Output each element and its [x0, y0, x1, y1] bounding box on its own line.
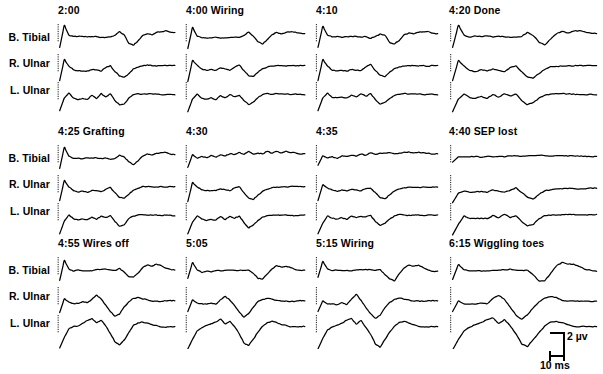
trace-svg — [52, 18, 180, 116]
trace-svg — [180, 139, 310, 237]
panel-4-10[interactable]: 4:10 — [310, 4, 443, 116]
channel-label-b-tibial: B. Tibial — [8, 152, 50, 164]
panel-title: 4:00 Wiring — [186, 4, 244, 16]
trace-line-r-ulnar — [453, 60, 597, 80]
channel-label-b-tibial: B. Tibial — [8, 31, 50, 43]
trace-line-r-ulnar — [60, 59, 175, 80]
trace-line-b-tibial — [60, 147, 175, 168]
trace-line-l-ulnar — [318, 214, 438, 233]
trace-line-r-ulnar — [188, 296, 305, 317]
panel-traces — [52, 251, 180, 349]
trace-svg — [443, 18, 603, 116]
trace-svg — [180, 18, 310, 116]
panel-4-30[interactable]: 4:30 — [180, 125, 310, 237]
panel-4-25-grafting[interactable]: 4:25 Grafting — [52, 125, 180, 237]
trace-line-l-ulnar — [318, 93, 438, 111]
channel-labels-row-2: B. Tibial R. Ulnar L. Ulnar — [0, 125, 52, 237]
trace-line-r-ulnar — [188, 60, 305, 81]
panel-title: 5:05 — [186, 237, 208, 249]
panel-title: 4:30 — [186, 125, 208, 137]
panel-title: 4:40 SEP lost — [449, 125, 517, 137]
trace-line-r-ulnar — [188, 182, 305, 201]
scale-bar-amplitude-label: 2 µv — [567, 330, 588, 342]
panel-traces — [180, 251, 310, 349]
panel-title: 4:20 Done — [449, 4, 501, 16]
trace-svg — [52, 139, 180, 237]
channel-labels-row-3: B. Tibial R. Ulnar L. Ulnar — [0, 237, 52, 349]
panel-traces — [310, 251, 443, 349]
trace-line-l-ulnar — [60, 215, 175, 234]
panel-4-35[interactable]: 4:35 — [310, 125, 443, 237]
scale-bar: 2 µv 10 ms — [540, 330, 603, 374]
trace-line-b-tibial — [188, 27, 305, 48]
panel-4-40-sep-lost[interactable]: 4:40 SEP lost — [443, 125, 603, 237]
trace-line-r-ulnar — [453, 296, 597, 320]
trace-svg — [310, 139, 443, 237]
trace-line-b-tibial — [60, 25, 175, 47]
trace-line-l-ulnar — [188, 319, 305, 349]
trace-block-row-3: B. Tibial R. Ulnar L. Ulnar 4:55 Wires o… — [0, 237, 603, 349]
trace-line-r-ulnar — [60, 180, 175, 200]
panel-4-55-wires-off[interactable]: 4:55 Wires off — [52, 237, 180, 349]
panel-traces — [443, 18, 603, 116]
trace-line-b-tibial — [318, 152, 438, 165]
trace-line-l-ulnar — [60, 93, 175, 111]
trace-line-b-tibial — [318, 26, 438, 47]
trace-line-l-ulnar — [188, 215, 305, 234]
trace-line-b-tibial — [453, 262, 597, 281]
trace-line-l-ulnar — [318, 318, 438, 349]
panel-title: 5:15 Wiring — [316, 237, 374, 249]
trace-line-l-ulnar — [453, 93, 597, 111]
trace-line-b-tibial — [453, 155, 597, 162]
panel-title: 4:55 Wires off — [58, 237, 129, 249]
panel-traces — [310, 139, 443, 237]
panel-traces — [52, 139, 180, 237]
channel-labels-row-1: B. Tibial R. Ulnar L. Ulnar — [0, 4, 52, 116]
panel-title: 2:00 — [58, 4, 80, 16]
panel-title: 6:15 Wiggling toes — [449, 237, 544, 249]
panel-traces — [443, 139, 603, 237]
trace-line-r-ulnar — [453, 188, 597, 203]
trace-line-l-ulnar — [453, 214, 597, 235]
trace-line-b-tibial — [453, 25, 597, 47]
trace-line-b-tibial — [318, 261, 438, 281]
channel-label-r-ulnar: R. Ulnar — [9, 290, 50, 302]
trace-line-b-tibial — [188, 151, 305, 167]
channel-label-b-tibial: B. Tibial — [8, 264, 50, 276]
channel-label-l-ulnar: L. Ulnar — [10, 84, 50, 96]
panel-traces — [180, 139, 310, 237]
panel-title: 4:25 Grafting — [58, 125, 125, 137]
trace-svg — [310, 18, 443, 116]
trace-line-l-ulnar — [60, 319, 175, 348]
panel-5-15-wiring[interactable]: 5:15 Wiring — [310, 237, 443, 349]
trace-line-r-ulnar — [318, 294, 438, 318]
trace-svg — [52, 251, 180, 349]
channel-label-l-ulnar: L. Ulnar — [10, 205, 50, 217]
trace-line-b-tibial — [188, 263, 305, 280]
panel-title: 4:10 — [316, 4, 338, 16]
panel-traces — [310, 18, 443, 116]
panel-4-20-done[interactable]: 4:20 Done — [443, 4, 603, 116]
scale-bar-time-label: 10 ms — [540, 359, 570, 371]
panel-5-05[interactable]: 5:05 — [180, 237, 310, 349]
trace-block-row-2: B. Tibial R. Ulnar L. Ulnar 4:25 Graftin… — [0, 125, 603, 237]
panel-title: 4:35 — [316, 125, 338, 137]
trace-line-l-ulnar — [188, 93, 305, 111]
trace-line-r-ulnar — [60, 295, 175, 316]
trace-line-r-ulnar — [318, 59, 438, 80]
panel-traces — [52, 18, 180, 116]
trace-block-row-1: B. Tibial R. Ulnar L. Ulnar 2:00 4:00 Wi… — [0, 4, 603, 116]
sep-trace-figure: B. Tibial R. Ulnar L. Ulnar 2:00 4:00 Wi… — [0, 0, 603, 374]
channel-label-l-ulnar: L. Ulnar — [10, 317, 50, 329]
channel-label-r-ulnar: R. Ulnar — [9, 57, 50, 69]
trace-svg — [310, 251, 443, 349]
channel-label-r-ulnar: R. Ulnar — [9, 178, 50, 190]
trace-svg — [443, 139, 603, 237]
panel-2-00[interactable]: 2:00 — [52, 4, 180, 116]
panel-traces — [180, 18, 310, 116]
trace-svg — [180, 251, 310, 349]
trace-line-b-tibial — [60, 260, 175, 280]
trace-line-r-ulnar — [318, 185, 438, 201]
panel-4-00-wiring[interactable]: 4:00 Wiring — [180, 4, 310, 116]
